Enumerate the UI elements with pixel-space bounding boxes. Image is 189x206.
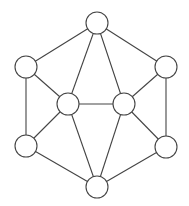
graph-diagram	[0, 0, 189, 206]
node-bottom	[86, 176, 108, 198]
edge-top-middle-right	[97, 23, 124, 104]
edge-top-middle-left	[68, 23, 97, 104]
node-upper-left	[15, 56, 37, 78]
node-top	[86, 12, 108, 34]
node-lower-right	[155, 136, 177, 158]
edge-lower-left-bottom	[26, 146, 97, 187]
edge-top-upper-left	[26, 23, 97, 67]
edge-middle-right-bottom	[97, 104, 124, 187]
node-upper-right	[155, 56, 177, 78]
node-lower-left	[15, 135, 37, 157]
edges-layer	[26, 23, 166, 187]
edge-lower-right-bottom	[97, 147, 166, 187]
nodes-layer	[15, 12, 177, 198]
node-middle-left	[57, 93, 79, 115]
node-middle-right	[113, 93, 135, 115]
edge-middle-left-bottom	[68, 104, 97, 187]
edge-top-upper-right	[97, 23, 166, 67]
